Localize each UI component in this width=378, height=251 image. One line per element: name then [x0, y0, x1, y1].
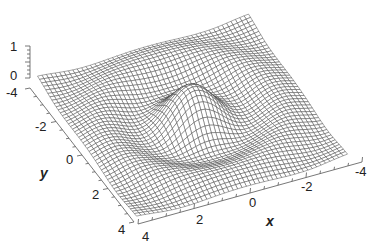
y-tick-4: 4: [118, 222, 125, 237]
x-tick-neg2: -2: [301, 179, 313, 194]
x-axis-title: x: [265, 213, 275, 229]
y-tick-0: 0: [66, 152, 73, 167]
z-tick-1: 1: [10, 39, 17, 54]
x-tick-4: 4: [142, 229, 149, 244]
y-tick-neg2: -2: [35, 119, 47, 134]
y-axis-title: y: [39, 165, 49, 181]
z-tick-0: 0: [10, 68, 17, 83]
x-tick-neg4: -4: [355, 164, 367, 179]
y-tick-2: 2: [92, 187, 99, 202]
x-tick-0: 0: [249, 195, 256, 210]
y-tick-neg4: -4: [6, 85, 18, 100]
surface-plot: 1 0 -4 -2 0 2 4 4 2 0 -2 -4 x y: [0, 0, 378, 251]
x-tick-2: 2: [196, 212, 203, 227]
